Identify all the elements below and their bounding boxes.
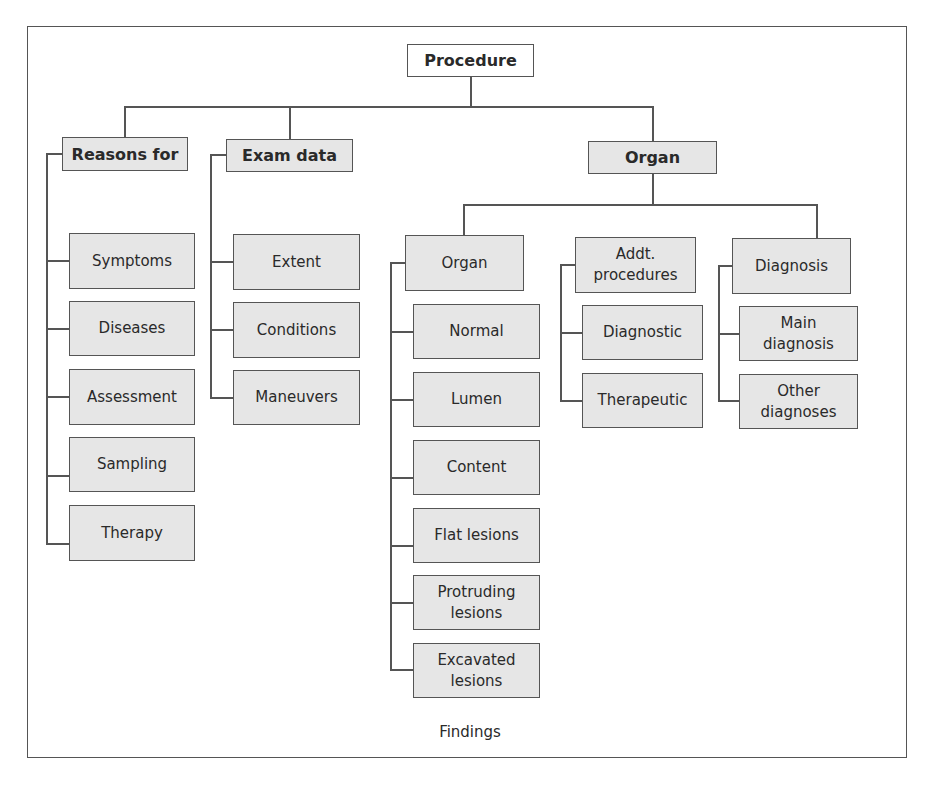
node-diagnostic: Diagnostic bbox=[582, 305, 703, 360]
node-addt-procedures: Addt. procedures bbox=[575, 237, 696, 293]
connector bbox=[390, 399, 413, 401]
connector bbox=[390, 262, 392, 670]
connector bbox=[718, 400, 739, 402]
connector bbox=[718, 265, 732, 267]
node-sampling: Sampling bbox=[69, 437, 195, 492]
connector bbox=[124, 106, 653, 108]
connector bbox=[390, 602, 413, 604]
node-diagnosis: Diagnosis bbox=[732, 238, 851, 294]
node-organ: Organ bbox=[405, 235, 524, 291]
connector bbox=[463, 204, 465, 235]
node-symptoms: Symptoms bbox=[69, 233, 195, 289]
node-excavated-lesions: Excavated lesions bbox=[413, 643, 540, 698]
node-maneuvers: Maneuvers bbox=[233, 370, 360, 425]
connector bbox=[390, 545, 413, 547]
connector bbox=[289, 106, 291, 139]
connector bbox=[560, 400, 582, 402]
connector bbox=[46, 153, 62, 155]
connector bbox=[210, 154, 226, 156]
node-flat-lesions: Flat lesions bbox=[413, 508, 540, 563]
connector bbox=[560, 332, 582, 334]
connector bbox=[46, 396, 69, 398]
node-procedure: Procedure bbox=[407, 44, 534, 77]
connector bbox=[46, 260, 69, 262]
node-therapy: Therapy bbox=[69, 505, 195, 561]
connector bbox=[46, 153, 48, 544]
node-assessment: Assessment bbox=[69, 369, 195, 425]
connector bbox=[390, 262, 405, 264]
connector bbox=[210, 154, 212, 398]
node-therapeutic: Therapeutic bbox=[582, 373, 703, 428]
node-content: Content bbox=[413, 440, 540, 495]
connector bbox=[46, 475, 69, 477]
connector bbox=[718, 333, 739, 335]
connector bbox=[210, 397, 233, 399]
node-main-diagnosis: Main diagnosis bbox=[739, 306, 858, 361]
connector bbox=[46, 543, 69, 545]
node-conditions: Conditions bbox=[233, 302, 360, 358]
connector bbox=[652, 174, 654, 204]
node-organ-top: Organ bbox=[588, 141, 717, 174]
findings-label: Findings bbox=[420, 723, 520, 741]
node-other-diagnoses: Other diagnoses bbox=[739, 374, 858, 429]
node-protruding-lesions: Protruding lesions bbox=[413, 575, 540, 630]
node-exam-data: Exam data bbox=[226, 139, 353, 172]
node-reasons-for: Reasons for bbox=[62, 137, 188, 171]
connector bbox=[652, 106, 654, 141]
connector bbox=[463, 204, 817, 206]
connector bbox=[124, 106, 126, 137]
node-diseases: Diseases bbox=[69, 301, 195, 356]
connector bbox=[210, 261, 233, 263]
connector bbox=[390, 669, 413, 671]
connector bbox=[46, 328, 69, 330]
connector bbox=[470, 77, 472, 107]
connector bbox=[560, 264, 575, 266]
connector bbox=[816, 204, 818, 238]
connector bbox=[390, 331, 413, 333]
node-extent: Extent bbox=[233, 234, 360, 290]
connector bbox=[210, 329, 233, 331]
connector bbox=[390, 477, 413, 479]
node-lumen: Lumen bbox=[413, 372, 540, 427]
node-normal: Normal bbox=[413, 304, 540, 359]
